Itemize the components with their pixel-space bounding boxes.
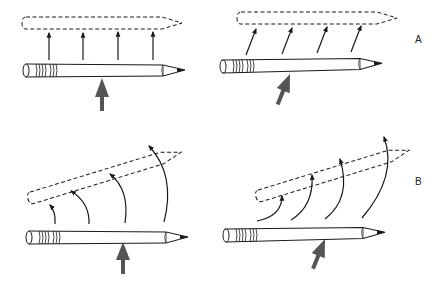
ghost-pencil-outline: [22, 17, 182, 29]
motion-arrows: [50, 146, 168, 224]
force-arrow-icon: [95, 78, 109, 111]
panel-a-left: [22, 17, 185, 111]
panel-b-left: [26, 146, 188, 274]
pencil-illustration: [23, 64, 185, 77]
panel-b-right: [223, 137, 411, 271]
pencil-illustration: [220, 57, 382, 73]
pencil-illustration: [26, 231, 188, 244]
diagram-canvas: [0, 0, 444, 292]
ghost-pencil-outline: [26, 146, 183, 204]
motion-arrows: [246, 26, 361, 55]
force-arrow-icon: [116, 242, 130, 274]
motion-arrows: [257, 137, 388, 221]
ghost-pencil-outline: [237, 12, 397, 24]
force-arrow-icon: [307, 236, 332, 271]
row-label-a: A: [415, 34, 422, 45]
pencil-illustration: [223, 226, 385, 242]
row-label-b: B: [415, 176, 422, 187]
motion-arrows: [49, 32, 153, 60]
force-arrow-icon: [271, 71, 296, 107]
panel-a-right: [220, 12, 397, 107]
